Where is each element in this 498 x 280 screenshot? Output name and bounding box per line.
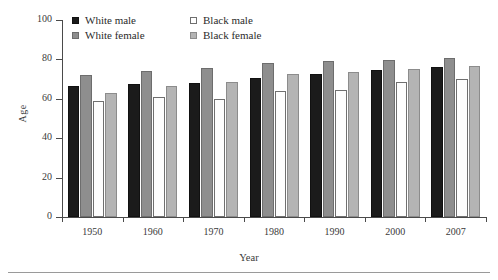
y-axis-tick: 100	[56, 20, 62, 21]
bar	[310, 74, 322, 217]
y-axis-tick: 80	[56, 59, 62, 60]
bar	[262, 63, 274, 217]
x-axis-tick	[62, 217, 63, 222]
bar	[287, 74, 299, 217]
x-axis-tick	[244, 217, 245, 222]
x-axis-tick-label: 1980	[252, 226, 296, 237]
x-axis-tick-label: 2007	[434, 226, 478, 237]
x-axis-tick-label: 1970	[191, 226, 235, 237]
bar	[189, 83, 201, 217]
bar	[335, 90, 347, 217]
bar	[431, 67, 443, 217]
bar	[93, 101, 105, 217]
bar	[166, 86, 178, 217]
x-axis-tick	[304, 217, 305, 222]
bar	[250, 78, 262, 217]
y-axis-tick-label: 80	[42, 52, 52, 63]
bar	[226, 82, 238, 217]
plot-area: 020406080100 195019601970198019902000200…	[62, 20, 486, 217]
bar	[469, 66, 481, 217]
x-axis-tick-label: 1990	[313, 226, 357, 237]
x-axis-tick	[365, 217, 366, 222]
chart-figure: Age White male Black male White female B…	[0, 0, 498, 280]
x-axis-title: Year	[0, 252, 498, 263]
x-axis-tick	[486, 217, 487, 222]
x-axis-tick-label: 2000	[373, 226, 417, 237]
x-axis-tick	[425, 217, 426, 222]
y-axis-tick-label: 40	[42, 131, 52, 142]
bar	[153, 97, 165, 217]
bar	[105, 93, 117, 217]
bar	[444, 58, 456, 217]
y-axis-tick-label: 100	[37, 13, 52, 24]
y-axis-line	[62, 20, 63, 218]
bar	[128, 84, 140, 217]
y-axis-tick-label: 60	[42, 92, 52, 103]
bar	[383, 60, 395, 217]
bar	[371, 70, 383, 217]
x-axis-tick-label: 1950	[70, 226, 114, 237]
y-axis-title: Age	[17, 84, 28, 144]
bar	[323, 61, 335, 217]
y-axis-tick-label: 20	[42, 171, 52, 182]
bar	[201, 68, 213, 217]
x-axis-tick-label: 1960	[131, 226, 175, 237]
y-axis-tick-label: 0	[47, 210, 52, 221]
bar	[68, 86, 80, 217]
bar	[141, 71, 153, 217]
page-rule-divider	[8, 272, 490, 273]
bar	[214, 99, 226, 217]
y-axis-tick: 20	[56, 178, 62, 179]
y-axis-tick: 40	[56, 138, 62, 139]
x-axis-line	[62, 217, 486, 218]
bar	[408, 69, 420, 217]
y-axis-tick: 60	[56, 99, 62, 100]
x-axis-tick	[123, 217, 124, 222]
bar	[348, 72, 360, 217]
bar	[396, 82, 408, 217]
bar	[275, 91, 287, 217]
bar	[456, 79, 468, 217]
bar	[80, 75, 92, 217]
x-axis-tick	[183, 217, 184, 222]
